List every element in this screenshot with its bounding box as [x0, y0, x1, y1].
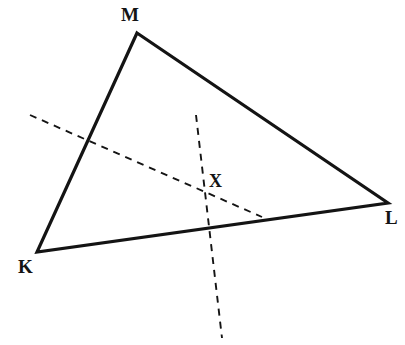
triangle-diagram-svg [0, 0, 405, 345]
vertex-label-m: M [121, 5, 139, 24]
vertex-label-k: K [18, 257, 33, 276]
dashed-line-1 [30, 115, 262, 217]
intersection-point-label-x: X [209, 172, 222, 190]
triangle-klm-outline [37, 33, 388, 252]
vertex-label-l: L [385, 208, 398, 227]
geometry-figure: M L K X [0, 0, 405, 345]
